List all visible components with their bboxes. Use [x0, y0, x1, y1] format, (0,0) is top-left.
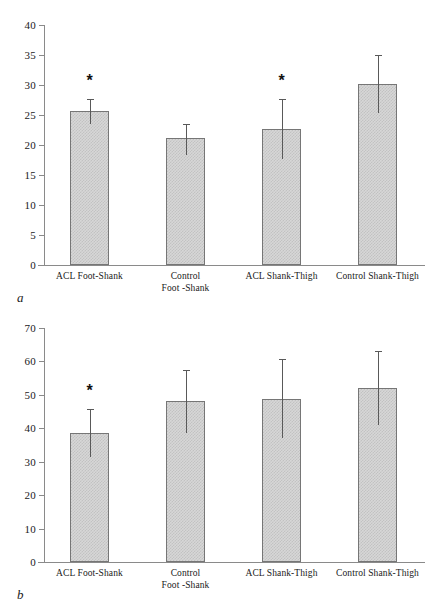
error-bar-cap-top [279, 359, 286, 360]
error-bar-cap-top [87, 409, 94, 410]
y-axis-tick [39, 85, 44, 86]
y-axis-tick-label: 20 [2, 490, 36, 501]
y-axis-line [44, 25, 45, 266]
x-axis-category-label: ACL Foot-Shank [38, 567, 142, 579]
y-axis-tick [39, 428, 44, 429]
y-axis-tick [39, 361, 44, 362]
x-axis-category-label: ACL Shank-Thigh [230, 567, 334, 579]
y-axis-tick-label: 30 [2, 457, 36, 468]
bar [70, 111, 109, 265]
x-axis-category-label: ACL Foot-Shank [38, 270, 142, 282]
y-axis-tick-label: 0 [2, 260, 36, 271]
y-axis-tick-label: 40 [2, 20, 36, 31]
error-bar-cap-top [87, 99, 94, 100]
y-axis-tick-label: 30 [2, 80, 36, 91]
y-axis-tick [39, 115, 44, 116]
x-axis-category-label: Control Foot -Shank [134, 270, 238, 294]
error-bar-cap-top [375, 351, 382, 352]
error-bar [282, 99, 283, 159]
y-axis-tick [39, 205, 44, 206]
y-axis-tick-label: 20 [2, 140, 36, 151]
figure-two-panel-bar-charts: 0510152025303540*ACL Foot-ShankControl F… [0, 0, 429, 602]
y-axis-tick-label: 70 [2, 323, 36, 334]
x-axis-category-label: Control Shank-Thigh [326, 270, 429, 282]
error-bar [378, 55, 379, 113]
y-axis-tick-label: 25 [2, 110, 36, 121]
error-bar-cap-top [279, 99, 286, 100]
error-bar [186, 370, 187, 433]
y-axis-tick-label: 0 [2, 557, 36, 568]
y-axis-tick [39, 145, 44, 146]
y-axis-tick [39, 562, 44, 563]
error-bar [90, 99, 91, 124]
y-axis-tick [39, 529, 44, 530]
error-bar-cap-top [183, 370, 190, 371]
panel-a: 0510152025303540*ACL Foot-ShankControl F… [0, 0, 429, 310]
y-axis-tick-label: 10 [2, 200, 36, 211]
y-axis-tick-label: 35 [2, 50, 36, 61]
significance-star: * [70, 383, 110, 399]
error-bar-cap-top [183, 124, 190, 125]
y-axis-tick-label: 60 [2, 356, 36, 367]
significance-star: * [262, 73, 302, 89]
x-axis-category-label: ACL Shank-Thigh [230, 270, 334, 282]
y-axis-tick [39, 175, 44, 176]
y-axis-tick-label: 50 [2, 390, 36, 401]
x-axis-category-label: Control Foot -Shank [134, 567, 238, 591]
y-axis-tick [39, 328, 44, 329]
bar [166, 138, 205, 265]
x-axis-line [38, 265, 425, 266]
significance-star: * [70, 73, 110, 89]
y-axis-tick-label: 15 [2, 170, 36, 181]
error-bar [90, 409, 91, 457]
y-axis-tick [39, 462, 44, 463]
y-axis-tick [39, 495, 44, 496]
panel-b: 010203040506070*ACL Foot-ShankControl Fo… [0, 302, 429, 602]
y-axis-tick [39, 55, 44, 56]
y-axis-tick-label: 5 [2, 230, 36, 241]
panel-letter-b: b [17, 588, 24, 601]
y-axis-line [44, 328, 45, 563]
x-axis-line [38, 562, 425, 563]
y-axis-tick [39, 25, 44, 26]
error-bar [282, 359, 283, 438]
error-bar [378, 351, 379, 425]
y-axis-tick [39, 235, 44, 236]
x-axis-category-label: Control Shank-Thigh [326, 567, 429, 579]
error-bar [186, 124, 187, 155]
y-axis-tick [39, 395, 44, 396]
error-bar-cap-top [375, 55, 382, 56]
y-axis-tick-label: 10 [2, 524, 36, 535]
y-axis-tick [39, 265, 44, 266]
y-axis-tick-label: 40 [2, 423, 36, 434]
